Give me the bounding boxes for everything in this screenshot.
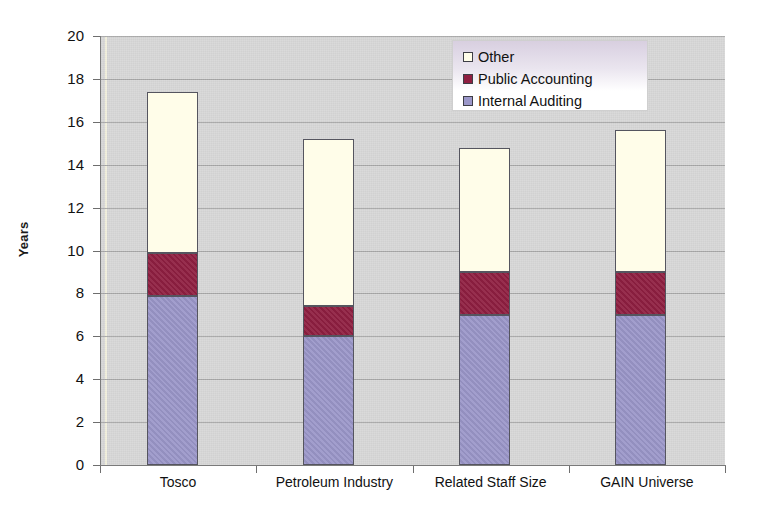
y-tick (93, 465, 100, 466)
y-tick-label: 16 (0, 113, 84, 130)
legend-label-internal-auditing: Internal Auditing (478, 93, 582, 109)
bar-segment-internal-auditing[interactable] (615, 315, 666, 465)
x-tick-label: Related Staff Size (413, 474, 569, 490)
stacked-bar-chart: Years 20181614121086420 ToscoPetroleum I… (0, 0, 773, 519)
bar-segment-public-accounting[interactable] (303, 306, 354, 336)
y-axis-line (100, 36, 101, 466)
y-tick (93, 208, 100, 209)
y-tick-label: 12 (0, 199, 84, 216)
y-tick (93, 336, 100, 337)
x-tick-label: GAIN Universe (569, 474, 725, 490)
y-tick-label: 20 (0, 27, 84, 44)
bar-segment-internal-auditing[interactable] (303, 336, 354, 465)
stacked-bar[interactable] (147, 36, 198, 465)
y-tick-label: 8 (0, 284, 84, 301)
bar-segment-other[interactable] (615, 130, 666, 272)
x-tick (256, 466, 257, 473)
y-tick-label: 18 (0, 70, 84, 87)
y-tick (93, 165, 100, 166)
y-tick (93, 79, 100, 80)
legend-item-public-accounting[interactable]: Public Accounting (463, 68, 647, 90)
x-tick (413, 466, 414, 473)
y-tick (93, 379, 100, 380)
bar-segment-internal-auditing[interactable] (459, 315, 510, 465)
y-tick-label: 2 (0, 413, 84, 430)
y-tick-label: 10 (0, 242, 84, 259)
y-tick-label: 4 (0, 370, 84, 387)
bar-segment-public-accounting[interactable] (147, 253, 198, 296)
chart-legend: Other Public Accounting Internal Auditin… (452, 40, 648, 111)
x-tick-label: Tosco (100, 474, 256, 490)
bar-segment-other[interactable] (147, 92, 198, 253)
bar-segment-public-accounting[interactable] (459, 272, 510, 315)
legend-item-internal-auditing[interactable]: Internal Auditing (463, 90, 647, 112)
legend-swatch-internal-auditing (463, 96, 473, 106)
y-tick (93, 422, 100, 423)
legend-swatch-public-accounting (463, 74, 473, 84)
y-tick (93, 293, 100, 294)
bar-segment-other[interactable] (303, 139, 354, 306)
legend-label-public-accounting: Public Accounting (478, 71, 592, 87)
x-tick (100, 466, 101, 473)
x-tick (725, 466, 726, 473)
y-tick (93, 251, 100, 252)
y-tick-label: 6 (0, 327, 84, 344)
y-tick (93, 122, 100, 123)
x-tick-label: Petroleum Industry (256, 474, 412, 490)
x-tick (569, 466, 570, 473)
y-tick-label: 14 (0, 156, 84, 173)
bar-segment-internal-auditing[interactable] (147, 296, 198, 465)
legend-item-other[interactable]: Other (463, 46, 647, 68)
legend-label-other: Other (478, 49, 514, 65)
y-tick-label: 0 (0, 456, 84, 473)
legend-swatch-other (463, 52, 473, 62)
bar-segment-public-accounting[interactable] (615, 272, 666, 315)
stacked-bar[interactable] (303, 36, 354, 465)
bar-segment-other[interactable] (459, 148, 510, 272)
y-tick (93, 36, 100, 37)
